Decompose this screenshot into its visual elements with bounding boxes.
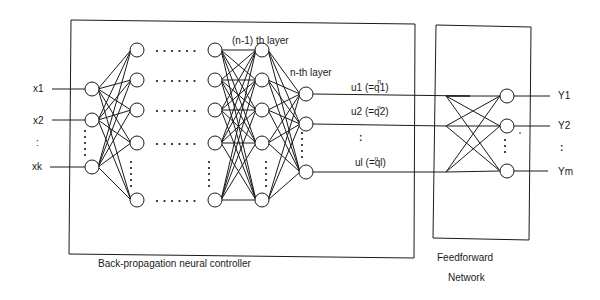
output-y2-label: Y2 [558,121,570,131]
ellipsis-dot [178,80,180,82]
layer-n-minus-2-node [208,193,222,207]
ellipsis-dot [130,179,132,181]
ellipsis-dot [301,132,303,134]
ellipsis-dot [186,143,188,145]
ellipsis-dot [156,80,158,82]
signal-ellipsis: : [359,133,362,143]
ellipsis-dot [193,110,195,112]
feedforward-box [433,25,531,240]
ellipsis-dot [301,156,303,158]
feedforward-caption-line1: Feedforward [437,253,493,263]
ellipsis-dot [84,136,86,138]
layer-n-minus-1-node [255,103,269,117]
connection-edge [268,172,300,200]
ellipsis-dot [208,167,210,169]
ellipsis-dot [84,148,86,150]
signal-ul-sup: n [375,155,378,161]
ellipsis-dot [130,185,132,187]
signal-u2-text: u2 (=q2) [351,106,389,117]
signal-u1-label: u1 (=q1) n [351,81,395,93]
layer-n-minus-2-node [208,73,222,87]
ellipsis-dot [265,161,267,163]
ellipsis-dot [130,173,132,175]
output-layer-node [500,119,514,133]
output-y1-label: Y1 [558,91,570,101]
layer-2-node [130,103,144,117]
ellipsis-dot [265,185,267,187]
ellipsis-dot [265,179,267,181]
input-layer-node [85,82,99,96]
ellipsis-dot [504,151,506,153]
ellipsis-dot [265,173,267,175]
input-x1-label: x1 [33,84,44,94]
ellipsis-dot [84,130,86,132]
controller-caption: Back-propagation neural controller [98,259,251,269]
layer-2-node [130,43,144,57]
connection-edge [98,50,131,89]
ellipsis-dot [163,143,165,145]
input-x2-label: x2 [33,116,44,126]
ellipsis-dot [504,145,506,147]
ellipsis-dot [301,150,303,152]
ellipsis-dot [84,142,86,144]
ellipsis-dot [163,200,165,202]
ellipsis-dot [193,50,195,52]
ellipsis-dot [156,143,158,145]
ellipsis-dot [171,80,173,82]
ellipsis-dot [519,132,521,134]
ellipsis-dot [193,200,195,202]
output-layer-node [500,164,514,178]
ellipsis-dot [156,110,158,112]
ellipsis-dot [301,138,303,140]
layer-2-node [130,136,144,150]
ellipsis-dot [186,50,188,52]
ellipsis-dot [163,80,165,82]
layer-n-minus-2-node [208,43,222,57]
neural-network-diagram [0,0,600,300]
input-ellipsis: : [36,138,39,148]
ellipsis-dot [178,110,180,112]
ellipsis-dot [130,167,132,169]
layer-2-node [130,73,144,87]
connection-edge [268,80,300,172]
ellipsis-dot [171,110,173,112]
ellipsis-dot [178,200,180,202]
signal-u2-label: u2 (=q2) n [351,106,395,117]
layer-n-minus-1-node [255,136,269,150]
ellipsis-dot [178,50,180,52]
layer-n-minus-2-node [208,136,222,150]
ellipsis-dot [186,110,188,112]
ellipsis-dot [208,173,210,175]
layer-n-minus-1-node [255,193,269,207]
ellipsis-dot [156,200,158,202]
ellipsis-dot [171,50,173,52]
layer-n-label: n-th layer [290,68,332,78]
output-layer-node [500,89,514,103]
ellipsis-dot [208,185,210,187]
feedforward-caption-line2: Network [448,273,485,283]
signal-u2-sup: n [377,104,380,110]
layer-n-minus-2-node [208,103,222,117]
ellipsis-dot [265,167,267,169]
output-ellipsis: : [560,143,563,153]
input-layer-node [85,113,99,127]
ellipsis-dot [130,161,132,163]
ellipsis-dot [186,200,188,202]
ellipsis-dot [208,179,210,181]
signal-u1-text: u1 (=q1) [351,82,389,93]
ellipsis-dot [193,80,195,82]
input-layer-node [85,160,99,174]
signal-ul-text: ul (=ql) [355,157,386,168]
signal-u1-sup: n [377,78,381,85]
ellipsis-dot [156,50,158,52]
layer-n-node [299,165,313,179]
layer-n-minus-1-node [255,73,269,87]
ellipsis-dot [208,161,210,163]
output-ym-label: Ym [558,167,573,177]
ellipsis-dot [301,144,303,146]
ellipsis-dot [186,80,188,82]
ellipsis-dot [84,154,86,156]
signal-ul-label: ul (=ql) n [355,157,392,168]
ellipsis-dot [163,110,165,112]
ellipsis-dot [171,200,173,202]
